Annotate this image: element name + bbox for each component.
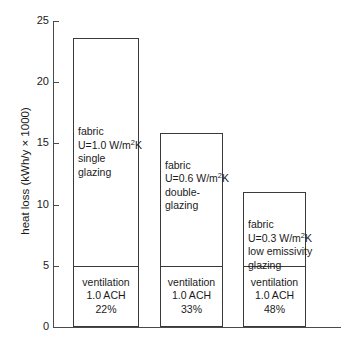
fabric-label-line-3: double- <box>165 186 229 200</box>
y-axis-tick-mark <box>53 82 59 83</box>
fabric-label-line-4: glazing <box>165 199 229 213</box>
y-axis-line <box>53 21 54 328</box>
y-axis-tick-label: 25 <box>26 15 49 26</box>
ventilation-label-line-1: ventilation <box>243 276 306 290</box>
ventilation-label-line-3: 48% <box>243 303 306 317</box>
fabric-segment-label: fabricU=1.0 W/m2Ksingleglazing <box>78 125 142 179</box>
fabric-label-line-3: low emissivity <box>248 245 312 259</box>
fabric-label-line-3: single <box>78 152 142 166</box>
ventilation-label-line-3: 22% <box>73 303 139 317</box>
u-value-suffix: K <box>305 232 312 244</box>
fabric-segment-label: fabricU=0.6 W/m2Kdouble-glazing <box>165 159 229 213</box>
y-axis-tick-label: 10 <box>26 199 49 210</box>
u-value-prefix: U=0.6 W/m <box>165 172 218 184</box>
ventilation-segment-label: ventilation1.0 ACH22% <box>73 276 139 317</box>
y-axis-tick-mark <box>53 327 59 328</box>
fabric-label-u-value: U=0.3 W/m2K <box>248 232 312 246</box>
y-axis-tick-label: 5 <box>26 260 49 271</box>
y-axis-tick-mark <box>53 21 59 22</box>
y-axis-tick-label: 15 <box>26 137 49 148</box>
u-value-prefix: U=0.3 W/m <box>248 232 301 244</box>
bar-segment-divider <box>161 266 222 267</box>
y-axis-tick-label: 0 <box>26 321 49 332</box>
ventilation-label-line-2: 1.0 ACH <box>243 289 306 303</box>
y-axis-tick-mark <box>53 266 59 267</box>
y-axis-tick-mark <box>53 143 59 144</box>
fabric-label-line-4: glazing <box>78 166 142 180</box>
y-axis-tick-label-text: 0 <box>26 321 49 332</box>
u-value-suffix: K <box>222 172 229 184</box>
ventilation-label-line-3: 33% <box>160 303 223 317</box>
ventilation-segment-label: ventilation1.0 ACH33% <box>160 276 223 317</box>
y-axis-tick-mark <box>53 205 59 206</box>
y-axis-tick-label-text: 10 <box>26 199 49 210</box>
x-axis-line <box>53 327 341 328</box>
bar-segment-divider <box>74 266 138 267</box>
ventilation-label-line-1: ventilation <box>160 276 223 290</box>
u-value-suffix: K <box>135 139 142 151</box>
y-axis-title: heat loss (kWh/y × 1000) <box>19 61 31 281</box>
fabric-label-u-value: U=0.6 W/m2K <box>165 172 229 186</box>
y-axis-tick-label-text: 5 <box>26 260 49 271</box>
fabric-label-u-value: U=1.0 W/m2K <box>78 139 142 153</box>
y-axis-tick-label-text: 15 <box>26 137 49 148</box>
y-axis-tick-label-text: 20 <box>26 76 49 87</box>
y-axis-tick-label-text: 25 <box>26 15 49 26</box>
u-value-prefix: U=1.0 W/m <box>78 139 131 151</box>
fabric-label-line-4: glazing <box>248 259 312 273</box>
heat-loss-bar-chart: heat loss (kWh/y × 1000) 2520151050 fabr… <box>0 0 358 344</box>
ventilation-label-line-1: ventilation <box>73 276 139 290</box>
ventilation-label-line-2: 1.0 ACH <box>160 289 223 303</box>
fabric-segment-label: fabricU=0.3 W/m2Klow emissivityglazing <box>248 218 312 272</box>
y-axis-tick-label: 20 <box>26 76 49 87</box>
ventilation-segment-label: ventilation1.0 ACH48% <box>243 276 306 317</box>
ventilation-label-line-2: 1.0 ACH <box>73 289 139 303</box>
